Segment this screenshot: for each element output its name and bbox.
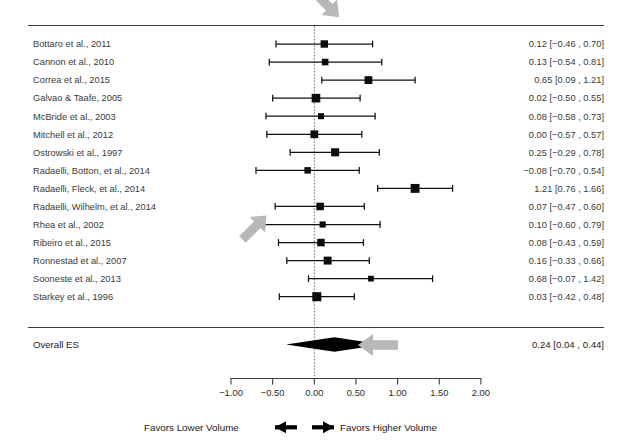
- study-label: Ribeiro et al., 2015: [33, 238, 111, 248]
- study-label: Starkey et al., 1996: [33, 292, 113, 302]
- effect-size-marker: [312, 94, 321, 103]
- effect-size-value: 0.02 [−0.50 , 0.55]: [529, 93, 604, 103]
- effect-size-value: 0.13 [−0.54 , 0.81]: [529, 57, 604, 67]
- effect-size-value: 0.10 [−0.60 , 0.79]: [529, 220, 604, 230]
- callout-arrow-top: [307, 0, 347, 25]
- favors-higher-volume-label: Favors Higher Volume: [340, 422, 437, 433]
- x-axis-tick-label: 1.50: [430, 387, 448, 398]
- study-row: McBride et al., 20030.08 [−0.58 , 0.73]: [33, 112, 604, 122]
- effect-size-marker: [304, 167, 310, 173]
- effect-size-marker: [322, 59, 329, 66]
- x-axis-line: [231, 379, 481, 385]
- effect-size-value: 0.12 [−0.46 , 0.70]: [529, 39, 604, 49]
- effect-size-marker: [316, 203, 324, 211]
- x-axis-tick-label: 0.00: [305, 387, 323, 398]
- x-axis-tick-label: −0.50: [261, 387, 285, 398]
- study-label: Radaelli, Fleck, et al., 2014: [33, 184, 145, 194]
- study-row: Ostrowski et al., 19970.25 [−0.29 , 0.78…: [33, 148, 604, 158]
- footer-legend: Favors Lower Volume Favors Higher Volume: [144, 421, 437, 433]
- study-row: Ronnestad et al., 20070.16 [−0.33 , 0.66…: [33, 256, 604, 266]
- arrow-right-icon: [312, 421, 334, 433]
- x-axis-tick-label: −1.00: [219, 387, 243, 398]
- effect-size-marker: [310, 130, 318, 138]
- study-row: Sooneste et al., 20130.68 [−0.07 , 1.42]: [33, 274, 604, 284]
- effect-size-value: −0.08 [−0.70 , 0.54]: [523, 166, 604, 176]
- effect-size-value: 0.65 [0.09 , 1.21]: [534, 75, 604, 85]
- study-row: Radaelli, Fleck, et al., 20141.21 [0.76 …: [33, 184, 604, 194]
- effect-size-marker: [411, 184, 420, 193]
- study-label: Galvao & Taafe, 2005: [33, 93, 122, 103]
- effect-size-marker: [312, 292, 321, 301]
- study-label: Correa et al., 2015: [33, 75, 110, 85]
- study-label: Sooneste et al., 2013: [33, 274, 121, 284]
- x-axis-tick-label: 1.00: [388, 387, 406, 398]
- effect-size-value: 0.08 [−0.58 , 0.73]: [529, 112, 604, 122]
- study-label: Rhea et al., 2002: [33, 220, 104, 230]
- effect-size-marker: [365, 76, 373, 84]
- study-row: Bottaro et al., 20110.12 [−0.46 , 0.70]: [33, 39, 604, 49]
- effect-size-value: 0.68 [−0.07 , 1.42]: [529, 274, 604, 284]
- x-axis-tick-labels: −1.00−0.500.000.501.001.502.00: [219, 387, 490, 398]
- effect-size-value: 0.07 [−0.47 , 0.60]: [529, 202, 604, 212]
- overall-row-value: 0.24 [0.04 , 0.44]: [532, 339, 604, 350]
- effect-size-marker: [324, 257, 332, 265]
- effect-size-value: 0.03 [−0.42 , 0.48]: [529, 292, 604, 302]
- effect-size-marker: [318, 113, 324, 119]
- study-label: McBride et al., 2003: [33, 112, 116, 122]
- study-label: Ostrowski et al., 1997: [33, 148, 122, 158]
- study-row: Cannon et al., 20100.13 [−0.54 , 0.81]: [33, 57, 604, 67]
- study-row: Galvao & Taafe, 20050.02 [−0.50 , 0.55]: [33, 93, 604, 103]
- overall-row-label: Overall ES: [33, 339, 79, 350]
- overall-row: Overall ES 0.24 [0.04 , 0.44]: [33, 337, 604, 351]
- study-row: Radaelli, Botton, et al., 2014−0.08 [−0.…: [33, 166, 604, 176]
- study-label: Ronnestad et al., 2007: [33, 256, 127, 266]
- x-axis-tick-label: 0.50: [347, 387, 365, 398]
- effect-size-value: 0.16 [−0.33 , 0.66]: [529, 256, 604, 266]
- effect-size-marker: [368, 276, 374, 282]
- effect-size-value: 0.08 [−0.43 , 0.59]: [529, 238, 604, 248]
- study-label: Radaelli, Botton, et al., 2014: [33, 166, 150, 176]
- forest-plot-canvas: Bottaro et al., 20110.12 [−0.46 , 0.70]C…: [0, 0, 630, 446]
- effect-size-marker: [331, 148, 339, 156]
- effect-size-marker: [321, 40, 328, 47]
- effect-size-value: 1.21 [0.76 , 1.66]: [534, 184, 604, 194]
- study-row: Radaelli, Wilhelm, et al., 20140.07 [−0.…: [33, 202, 604, 212]
- study-label: Mitchell et al., 2012: [33, 130, 113, 140]
- effect-size-marker: [320, 221, 326, 227]
- study-rows: Bottaro et al., 20110.12 [−0.46 , 0.70]C…: [33, 39, 604, 302]
- study-row: Starkey et al., 19960.03 [−0.42 , 0.48]: [33, 292, 604, 302]
- x-axis: −1.00−0.500.000.501.001.502.00: [219, 379, 490, 398]
- arrow-left-icon: [275, 421, 297, 433]
- x-axis-tick-label: 2.00: [472, 387, 490, 398]
- favors-lower-volume-label: Favors Lower Volume: [144, 422, 239, 433]
- study-row: Correa et al., 20150.65 [0.09 , 1.21]: [33, 75, 604, 85]
- study-row: Ribeiro et al., 20150.08 [−0.43 , 0.59]: [33, 238, 604, 248]
- effect-size-value: 0.00 [−0.57 , 0.57]: [529, 130, 604, 140]
- forest-plot-figure: Bottaro et al., 20110.12 [−0.46 , 0.70]C…: [0, 0, 630, 446]
- study-label: Bottaro et al., 2011: [33, 39, 111, 49]
- effect-size-value: 0.25 [−0.29 , 0.78]: [529, 148, 604, 158]
- effect-size-marker: [317, 239, 325, 247]
- study-label: Cannon et al., 2010: [33, 57, 114, 67]
- callout-arrow-overall: [358, 334, 398, 356]
- study-row: Rhea et al., 20020.10 [−0.60 , 0.79]: [33, 220, 604, 230]
- callout-arrow-radaelli-fleck: [235, 208, 275, 248]
- study-label: Radaelli, Wilhelm, et al., 2014: [33, 202, 156, 212]
- study-row: Mitchell et al., 20120.00 [−0.57 , 0.57]: [33, 130, 604, 140]
